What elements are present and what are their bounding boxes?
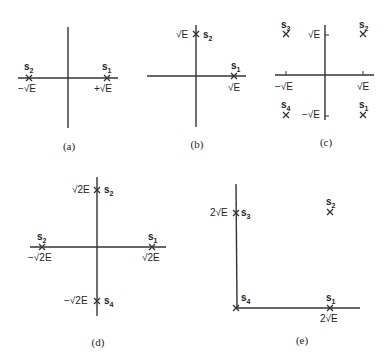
signal-label-c-s2: s2 [359,20,368,32]
caption-a: (a) [63,141,75,152]
panel-d-axes [30,177,166,316]
signal-label-b-s2: s2 [203,30,212,42]
caption-b: (b) [191,139,204,150]
value-label-d-x-neg: −√2E [28,253,52,263]
panel-a-axes [18,27,118,128]
panel-b-axes [147,25,246,127]
caption-c: (c) [320,137,332,148]
value-label-b-x: √E [228,83,240,93]
signal-label-d-s2-left: s2 [37,232,46,244]
tick-label-c-x-neg: −√E [275,82,293,92]
value-label-a-pos: +√E [94,84,112,94]
signal-label-e-s1: s1 [326,293,335,305]
signal-label-c-s3: s3 [281,20,290,32]
value-label-e-x: 2√E [320,314,338,324]
signal-label-c-s4: s4 [281,100,290,112]
value-label-b-y: √E [176,30,188,40]
signal-label-e-s3: s3 [241,208,250,220]
value-label-e-y: 2√E [210,208,228,218]
panel-e-axes [233,184,360,311]
value-label-d-y-pos: √2E [72,185,90,195]
signal-label-d-s4: s4 [104,296,113,308]
signal-label-a-s1: s1 [102,62,111,74]
signal-label-e-s2: s2 [326,197,335,209]
caption-d: (d) [92,337,105,348]
signal-label-e-s4: s4 [241,293,250,305]
value-label-d-y-neg: −√2E [64,296,88,306]
tick-label-c-y-pos: √E [308,30,320,40]
tick-label-c-y-neg: −√E [302,110,320,120]
caption-e: (e) [296,335,308,346]
signal-label-c-s1: s1 [359,100,368,112]
value-label-a-neg: −√E [18,84,36,94]
signal-label-d-s1: s1 [148,232,157,244]
signal-label-a-s2: s2 [24,62,33,74]
value-label-d-x-pos: √2E [142,253,160,263]
tick-label-c-x-pos: √E [357,82,369,92]
signal-label-d-s2-top: s2 [104,185,113,197]
signal-label-b-s1: s1 [231,61,240,73]
